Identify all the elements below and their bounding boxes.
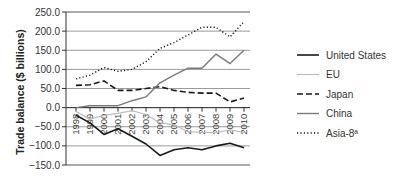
x-tick-label: 2002 xyxy=(126,114,137,135)
x-tick-label: 2001 xyxy=(112,114,123,135)
trade-balance-chart: 250.0200.0150.0100.050.00.0−50.0−100.0−1… xyxy=(0,0,396,185)
y-tick-label: 200.0 xyxy=(35,26,60,37)
series-line-japan xyxy=(76,81,244,102)
legend-label: Japan xyxy=(326,89,353,100)
y-tick-label: 0.0 xyxy=(46,102,60,113)
y-tick-label: −100.0 xyxy=(29,140,60,151)
x-tick-label: 2004 xyxy=(154,114,165,135)
legend-label: China xyxy=(326,108,353,119)
y-axis: 250.0200.0150.0100.050.00.0−50.0−100.0−1… xyxy=(29,7,66,171)
y-tick-label: 50.0 xyxy=(41,83,61,94)
legend-label: United States xyxy=(326,50,386,61)
y-tick-label: −150.0 xyxy=(29,160,60,171)
y-tick-label: 250.0 xyxy=(35,7,60,18)
x-tick-label: 2009 xyxy=(224,114,235,135)
series-line-china xyxy=(76,50,244,107)
gridlines xyxy=(66,12,250,165)
y-tick-label: 150.0 xyxy=(35,45,60,56)
legend-label: Asia-8ª xyxy=(326,128,358,139)
legend: United StatesEUJapanChinaAsia-8ª xyxy=(297,50,386,139)
x-tick-label: 2007 xyxy=(196,114,207,135)
legend-label: EU xyxy=(326,69,340,80)
y-axis-label: Trade balance ($ billions) xyxy=(14,29,26,154)
y-tick-label: 100.0 xyxy=(35,64,60,75)
y-tick-label: −50.0 xyxy=(35,121,61,132)
